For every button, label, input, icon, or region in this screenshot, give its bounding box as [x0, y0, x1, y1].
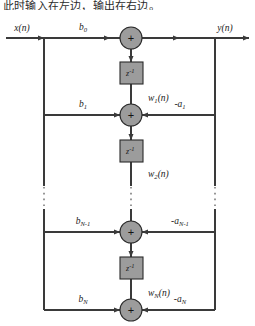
- coeff-bn1-label: bN-1: [76, 216, 91, 227]
- coeff-bn-label: bN: [78, 294, 88, 305]
- adder-symbol-1: +: [128, 32, 134, 44]
- diagram-canvas: 此时输入在左边，输出在右边。: [0, 0, 255, 326]
- input-signal-label: x(n): [13, 23, 29, 34]
- state-var-w2-label: w2(n): [148, 169, 169, 180]
- adder-symbol-4: +: [128, 304, 134, 316]
- output-signal-label: y(n): [216, 23, 232, 34]
- coeff-a1-label: -a1: [174, 99, 185, 110]
- state-var-w1-label: w1(n): [148, 93, 169, 104]
- adder-symbol-2: +: [128, 109, 134, 121]
- coeff-b0-label: b0: [79, 22, 88, 33]
- coeff-b1-label: b1: [79, 99, 87, 110]
- state-var-wn-label: wN(n): [148, 288, 170, 299]
- coeff-an-label: -aN: [174, 294, 187, 305]
- coeff-an1-label: -aN-1: [171, 216, 189, 227]
- signal-flow-graph: z-1 z-1 z-1 + + + + x(n) y(n) b0 b1: [0, 0, 255, 326]
- adder-symbol-3: +: [128, 226, 134, 238]
